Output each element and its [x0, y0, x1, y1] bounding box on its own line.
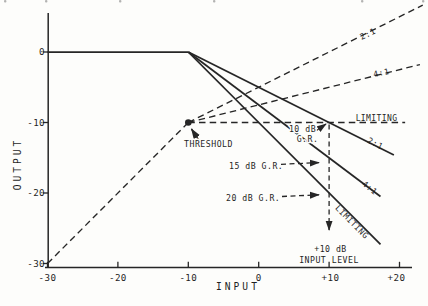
cropped-text-fragment: [213, 0, 215, 3]
label-input-level-line1: +10 dB: [314, 244, 347, 254]
x-tick-label--20: -20: [109, 272, 127, 283]
10db-gr-arrow: [317, 124, 327, 131]
y-tick-label--30: -30: [27, 258, 45, 269]
cropped-text-fragment: [4, 0, 6, 3]
15db-gr-arrow: [281, 163, 319, 165]
label-20db-gr: 20 dB G.R.: [226, 193, 280, 203]
x-tick-label-+20: +20: [388, 272, 406, 283]
label-15db-gr: 15 dB G.R.: [229, 161, 283, 171]
label-gain-limiting: LIMITING: [333, 203, 371, 241]
scanned-figure-page: 0 -10 -20 -30 -30 -20 -10 0 +10 +20 OUTP…: [0, 0, 428, 306]
y-tick-label--10: -10: [27, 117, 45, 128]
label-output-ratio-2to1: 2:1: [358, 26, 377, 42]
threshold-point: [185, 119, 192, 126]
cropped-text-fragment: [45, 0, 47, 3]
x-tick-label--30: -30: [39, 272, 57, 283]
label-threshold: THRESHOLD: [184, 139, 233, 149]
label-output-ratio-4to1: 4:1: [372, 66, 390, 79]
cropped-text-fragment: [422, 0, 424, 3]
y-tick-label-0: 0: [39, 46, 45, 57]
cropped-text-fragment: [119, 0, 121, 3]
y-tick-label--20: -20: [27, 187, 45, 198]
y-axis-title: OUTPUT: [12, 138, 23, 191]
label-10db-gr-line2: G.R.: [297, 134, 319, 144]
label-10db-gr-line1: 10 dB: [289, 124, 316, 134]
label-output-limiting: LIMITING: [356, 114, 398, 123]
label-input-level-line2: INPUT LEVEL: [299, 255, 359, 265]
series-io_2to1: [188, 5, 422, 122]
x-tick-label-+10: +10: [322, 272, 340, 283]
20db-gr-arrow: [282, 195, 319, 197]
x-tick-label--10: -10: [179, 272, 197, 283]
cropped-text-fragment: [361, 0, 363, 3]
compressor-transfer-curves-chart: 0 -10 -20 -30 -30 -20 -10 0 +10 +20 OUTP…: [0, 0, 428, 306]
series-io_unity: [48, 123, 189, 264]
x-axis-title: INPUT: [216, 281, 260, 292]
